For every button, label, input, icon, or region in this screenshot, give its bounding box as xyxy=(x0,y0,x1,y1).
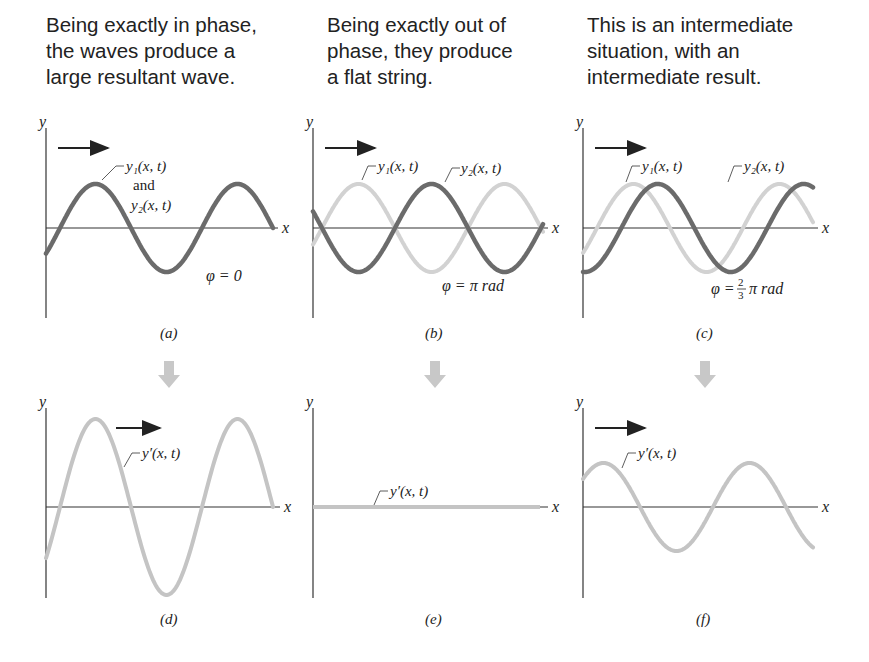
leader-line xyxy=(124,453,140,467)
phase-label: φ = π rad xyxy=(442,277,505,295)
y-axis-label: y xyxy=(304,393,314,411)
x-axis-label: x xyxy=(821,219,829,236)
wave-label-y2: y₂(x, t) xyxy=(129,197,171,214)
panel-label: (a) xyxy=(160,325,178,342)
wave-label-y2: y₂(x, t) xyxy=(742,158,784,175)
y-axis-label: y xyxy=(304,113,314,131)
leader-line xyxy=(445,168,460,182)
wave-label: y′(x, t) xyxy=(140,445,180,462)
panel-label: (f) xyxy=(696,611,710,628)
panel-label: (b) xyxy=(425,325,443,342)
panel-e: y x y′(x, t) (e) xyxy=(304,393,559,628)
y-axis-label: y xyxy=(574,113,584,131)
panel-label: (c) xyxy=(696,325,713,342)
x-axis-label: x xyxy=(821,498,829,515)
wave-label: y′(x, t) xyxy=(636,445,676,462)
wave-label-y2: y₂(x, t) xyxy=(459,160,501,177)
leader-line xyxy=(362,166,376,180)
panel-b: y x y₁(x, t) y₂(x, t) φ = π rad (b) xyxy=(304,113,559,342)
leader-line xyxy=(626,166,640,182)
interference-figure: y x y₁(x, t) and y₂(x, t) φ = 0 (a) y x … xyxy=(0,0,869,662)
y-axis-label: y xyxy=(37,113,47,131)
x-axis-label: x xyxy=(551,219,559,236)
x-axis-label: x xyxy=(281,219,289,236)
y-axis-label: y xyxy=(37,393,47,411)
x-axis-label: x xyxy=(283,498,291,515)
phase-label: φ = 0 xyxy=(206,267,242,285)
wave-label: y′(x, t) xyxy=(388,483,428,500)
wave-label-y1: y₁(x, t) xyxy=(376,158,418,175)
leader-line xyxy=(622,453,636,468)
down-arrows xyxy=(158,361,716,388)
leader-line xyxy=(374,491,388,505)
phase-label-suffix: π rad xyxy=(749,280,784,297)
panel-a: y x y₁(x, t) and y₂(x, t) φ = 0 (a) xyxy=(37,113,289,342)
wave-label-y1: y₁(x, t) xyxy=(124,158,166,175)
y-axis-label: y xyxy=(574,393,584,411)
panel-f: y x y′(x, t) (f) xyxy=(574,393,829,628)
and-label: and xyxy=(133,177,155,193)
down-arrow-icon xyxy=(158,361,180,388)
leader-line xyxy=(102,166,124,180)
phase-fraction-denominator: 3 xyxy=(738,289,744,301)
leader-line xyxy=(728,166,742,182)
panel-c: y x y₁(x, t) y₂(x, t) φ = 2 3 π rad (c) xyxy=(574,113,829,342)
panel-label: (d) xyxy=(160,611,178,628)
phase-fraction-numerator: 2 xyxy=(738,276,744,288)
panel-label: (e) xyxy=(425,611,442,628)
wave-label-y1: y₁(x, t) xyxy=(640,158,682,175)
phase-label-prefix: φ = xyxy=(711,280,735,298)
down-arrow-icon xyxy=(694,361,716,388)
down-arrow-icon xyxy=(424,361,446,388)
x-axis-label: x xyxy=(551,498,559,515)
panel-d: y x y′(x, t) (d) xyxy=(37,393,291,628)
